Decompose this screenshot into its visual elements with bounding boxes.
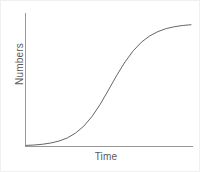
y-axis-label: Numbers xyxy=(14,59,25,85)
chart-figure: Numbers Time xyxy=(0,0,200,172)
data-series-line xyxy=(26,25,191,146)
plot-area xyxy=(1,1,200,172)
x-axis-label: Time xyxy=(56,151,156,162)
